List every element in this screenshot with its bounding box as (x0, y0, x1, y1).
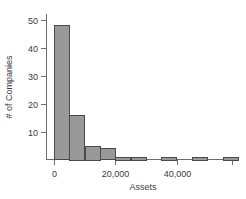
y-tick-label: 20 (28, 100, 38, 110)
histogram-bar (70, 116, 85, 161)
y-tick-label: 30 (28, 72, 38, 82)
y-axis-title: # of Companies (4, 55, 14, 119)
histogram-bar (55, 26, 70, 160)
y-axis-tick-labels: 1020304050 (28, 16, 38, 138)
histogram-chart: 1020304050 020,00040,000 Assets # of Com… (0, 0, 246, 199)
y-tick-label: 10 (28, 128, 38, 138)
histogram-bar (193, 158, 208, 161)
histogram-bar (132, 158, 147, 161)
histogram-bar (86, 147, 101, 161)
x-axis-tick-labels: 020,00040,000 (52, 169, 191, 179)
y-tick-label: 40 (28, 44, 38, 54)
x-tick-label: 40,000 (164, 169, 192, 179)
y-axis-ticks (41, 21, 47, 133)
histogram-bar (224, 158, 239, 161)
x-axis: 020,00040,000 (47, 160, 239, 180)
histogram-bar (162, 158, 177, 161)
histogram-bar (116, 158, 131, 161)
x-axis-title: Assets (129, 182, 157, 192)
y-tick-label: 50 (28, 16, 38, 26)
bars-group (55, 26, 239, 161)
x-tick-label: 20,000 (102, 169, 130, 179)
y-axis: 1020304050 (28, 14, 47, 160)
chart-canvas: 1020304050 020,00040,000 Assets # of Com… (0, 0, 246, 199)
x-tick-label: 0 (52, 169, 57, 179)
histogram-bar (101, 149, 116, 160)
